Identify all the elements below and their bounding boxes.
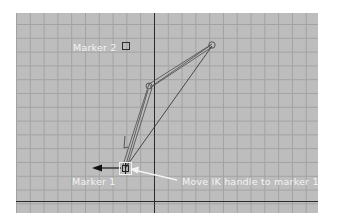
marker1-label: Marker 1	[72, 176, 116, 187]
pole-vector-icon[interactable]	[124, 136, 128, 148]
ik-handle-line	[126, 46, 212, 167]
lower-bone[interactable]	[123, 84, 152, 168]
marker2-label: Marker 2	[73, 42, 117, 53]
upper-bone[interactable]	[149, 44, 212, 88]
move-arrow-x-icon[interactable]	[92, 165, 121, 172]
marker2-icon[interactable]	[123, 43, 130, 50]
scene-canvas	[0, 0, 337, 223]
callout-arrow-icon	[130, 167, 177, 181]
instruction-callout: Move IK handle to marker 1	[182, 176, 319, 187]
